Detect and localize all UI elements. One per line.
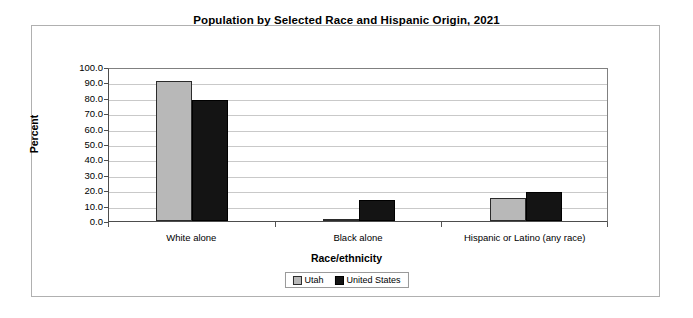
x-axis-tick-label: White alone — [108, 232, 275, 243]
y-axis-tick-label: 70.0 — [57, 108, 103, 119]
y-axis-tick-labels: 100.090.080.070.060.050.040.030.020.010.… — [57, 68, 103, 222]
y-axis-tick-label: 60.0 — [57, 124, 103, 135]
x-axis-tick-label: Black alone — [275, 232, 442, 243]
x-axis-tick-mark — [108, 222, 109, 227]
legend-item-united-states: United States — [334, 275, 400, 285]
legend-label-utah: Utah — [304, 275, 323, 285]
y-axis-tick-label: 0.0 — [57, 216, 103, 227]
y-axis-tick-label: 20.0 — [57, 185, 103, 196]
bar-group — [109, 69, 276, 221]
legend-item-utah: Utah — [292, 275, 323, 285]
y-axis-tick-label: 30.0 — [57, 170, 103, 181]
x-axis-tick-mark — [441, 222, 442, 227]
bar-united-states[interactable] — [526, 192, 562, 221]
legend-swatch-utah — [292, 276, 301, 285]
y-axis-tick-label: 10.0 — [57, 201, 103, 212]
y-axis-tick-label: 90.0 — [57, 77, 103, 88]
x-axis-tick-mark — [607, 222, 608, 227]
x-axis-tick-marks — [108, 222, 608, 228]
plot-area — [108, 68, 608, 222]
x-axis-tick-label: Hispanic or Latino (any race) — [441, 232, 608, 243]
bar-group — [442, 69, 609, 221]
bar-utah[interactable] — [156, 81, 192, 221]
bar-united-states[interactable] — [192, 100, 228, 221]
y-axis-tick-label: 100.0 — [57, 62, 103, 73]
legend-swatch-united-states — [334, 276, 343, 285]
y-axis-tick-label: 40.0 — [57, 154, 103, 165]
bar-utah[interactable] — [323, 219, 359, 221]
y-axis-tick-label: 50.0 — [57, 139, 103, 150]
x-axis-title: Race/ethnicity — [0, 252, 693, 264]
legend-label-united-states: United States — [346, 275, 400, 285]
y-axis-title: Percent — [28, 94, 40, 174]
bar-united-states[interactable] — [359, 200, 395, 221]
chart-legend: Utah United States — [284, 272, 408, 288]
bar-group — [276, 69, 443, 221]
x-axis-tick-mark — [275, 222, 276, 227]
bar-utah[interactable] — [490, 198, 526, 221]
y-axis-tick-label: 80.0 — [57, 93, 103, 104]
chart-title: Population by Selected Race and Hispanic… — [0, 14, 693, 26]
